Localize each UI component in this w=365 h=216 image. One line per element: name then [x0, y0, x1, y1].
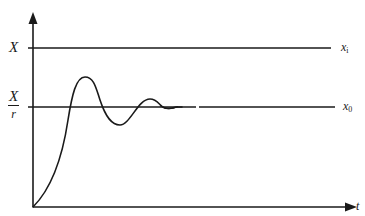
fraction-denominator: r	[11, 106, 16, 120]
output-level-left-label: X r	[8, 89, 19, 120]
step-response-diagram	[0, 0, 365, 216]
input-level-subscript: i	[346, 46, 348, 55]
output-level-right-label: x0	[343, 100, 352, 114]
input-level-left-label: X	[9, 40, 18, 55]
input-level-right-label: xi	[341, 41, 349, 55]
fraction-numerator: X	[8, 89, 19, 106]
response-curve	[33, 77, 182, 207]
output-level-subscript: 0	[348, 105, 352, 114]
y-axis-arrow-icon	[29, 12, 38, 24]
t-axis-label: t	[356, 200, 359, 212]
